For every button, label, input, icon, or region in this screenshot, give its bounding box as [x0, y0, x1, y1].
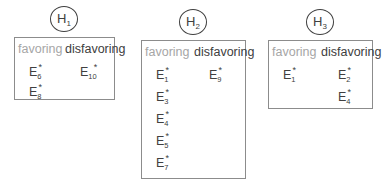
- evidence-item: E4*: [338, 87, 351, 106]
- evidence-item: E4*: [156, 109, 169, 128]
- evidence-item: E2*: [338, 65, 351, 84]
- evidence-item: E8*: [29, 82, 42, 101]
- evidence-item: E1*: [156, 65, 169, 84]
- evidence-item: E9*: [209, 65, 222, 84]
- hypothesis-node-h2: H2: [179, 9, 207, 35]
- disfavoring-header: disfavoring: [65, 42, 125, 56]
- evidence-item: E3*: [156, 87, 169, 106]
- evidence-box-h2: favoring disfavoring E1* E3* E4* E5* E7*…: [141, 40, 246, 179]
- hypothesis-index: 3: [322, 22, 326, 31]
- evidence-item: E6*: [29, 62, 42, 81]
- hypothesis-node-h3: H3: [306, 9, 334, 35]
- evidence-item: E7*: [156, 153, 169, 172]
- evidence-box-h1: favoring disfavoring E6* E8* E10*: [14, 37, 115, 100]
- evidence-box-h3: favoring disfavoring E1* E2* E4*: [268, 40, 373, 109]
- hypothesis-index: 2: [195, 22, 199, 31]
- favoring-header: favoring: [272, 45, 316, 59]
- favoring-header: favoring: [18, 42, 62, 56]
- disfavoring-header: disfavoring: [321, 45, 381, 59]
- hypothesis-node-h1: H1: [50, 6, 78, 32]
- evidence-item: E1*: [283, 65, 296, 84]
- disfavoring-header: disfavoring: [194, 45, 254, 59]
- hypothesis-index: 1: [66, 19, 70, 28]
- evidence-item: E10*: [80, 62, 97, 81]
- evidence-item: E5*: [156, 131, 169, 150]
- favoring-header: favoring: [145, 45, 189, 59]
